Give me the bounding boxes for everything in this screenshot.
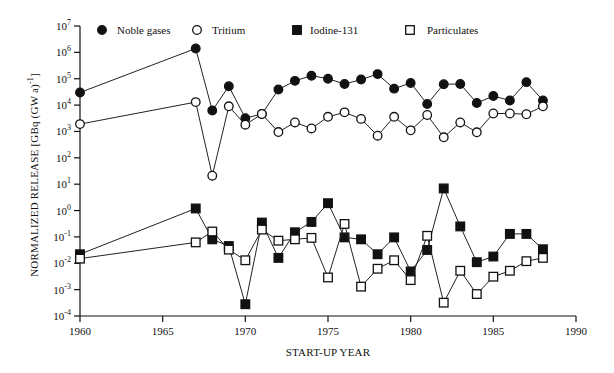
data-point bbox=[439, 133, 448, 142]
data-point bbox=[76, 254, 85, 263]
data-point bbox=[522, 230, 531, 239]
data-point bbox=[274, 236, 283, 245]
data-point bbox=[439, 298, 448, 307]
series-tritium bbox=[76, 98, 548, 180]
y-axis-title: NORMALIZED RELEASE [GBq (GW a)-1] bbox=[26, 73, 41, 277]
data-point bbox=[291, 118, 300, 127]
data-point bbox=[357, 75, 366, 84]
data-point bbox=[307, 218, 316, 227]
data-point bbox=[324, 273, 333, 282]
data-point bbox=[506, 230, 515, 239]
data-point bbox=[274, 85, 283, 94]
data-point bbox=[274, 128, 283, 137]
data-point bbox=[373, 70, 382, 79]
data-point bbox=[307, 71, 316, 80]
data-point bbox=[456, 80, 465, 89]
data-point bbox=[258, 110, 267, 119]
y-tick-label: 106 bbox=[56, 44, 71, 58]
data-point bbox=[539, 245, 548, 254]
data-point bbox=[225, 82, 234, 91]
y-tick-label: 107 bbox=[56, 18, 71, 32]
data-point bbox=[324, 199, 333, 208]
data-point bbox=[473, 128, 482, 137]
y-axis-title-main: NORMALIZED RELEASE [GBq (GW a) bbox=[28, 84, 41, 277]
data-point bbox=[373, 250, 382, 259]
filled-circle-icon bbox=[98, 26, 107, 35]
data-point bbox=[539, 254, 548, 263]
data-point bbox=[208, 227, 217, 236]
data-point bbox=[390, 233, 399, 242]
data-point bbox=[191, 204, 200, 213]
data-point bbox=[307, 124, 316, 133]
data-point bbox=[489, 109, 498, 118]
y-axis-title-sup: -1 bbox=[26, 77, 35, 84]
series-line bbox=[80, 188, 543, 304]
data-point bbox=[340, 108, 349, 117]
data-point bbox=[522, 257, 531, 266]
data-point bbox=[522, 78, 531, 87]
x-tick-label: 1970 bbox=[234, 325, 257, 337]
y-axis-ticks: 10710610510410310210110010-110-210-310-4 bbox=[53, 18, 80, 322]
data-point bbox=[373, 131, 382, 140]
data-point bbox=[456, 266, 465, 275]
series-noble-gases bbox=[76, 44, 548, 122]
open-square-icon bbox=[406, 26, 415, 35]
data-point bbox=[241, 120, 250, 129]
data-point bbox=[390, 112, 399, 121]
y-tick-label: 10-4 bbox=[53, 308, 71, 322]
data-point bbox=[208, 106, 217, 115]
data-point bbox=[489, 252, 498, 261]
data-point bbox=[522, 110, 531, 119]
x-tick-label: 1975 bbox=[317, 325, 340, 337]
y-tick-label: 104 bbox=[56, 97, 71, 111]
data-point bbox=[340, 80, 349, 89]
data-point bbox=[473, 99, 482, 108]
data-point bbox=[506, 266, 515, 275]
data-point bbox=[191, 238, 200, 247]
legend-item-particulates: Particulates bbox=[406, 24, 479, 36]
data-point bbox=[439, 184, 448, 193]
data-series bbox=[76, 44, 548, 308]
data-point bbox=[456, 222, 465, 231]
x-tick-label: 1990 bbox=[565, 325, 588, 337]
data-point bbox=[324, 112, 333, 121]
data-point bbox=[473, 258, 482, 267]
data-point bbox=[390, 256, 399, 265]
y-tick-label: 102 bbox=[56, 150, 71, 164]
data-point bbox=[324, 74, 333, 83]
data-point bbox=[291, 77, 300, 86]
series-line bbox=[80, 102, 543, 176]
data-point bbox=[423, 100, 432, 109]
data-point bbox=[506, 96, 515, 105]
data-point bbox=[76, 120, 85, 129]
data-point bbox=[291, 235, 300, 244]
y-tick-label: 10-2 bbox=[53, 255, 71, 269]
filled-square-icon bbox=[293, 26, 302, 35]
legend-label: Iodine-131 bbox=[310, 24, 358, 36]
data-point bbox=[539, 102, 548, 111]
data-point bbox=[473, 290, 482, 299]
data-point bbox=[274, 254, 283, 263]
data-point bbox=[423, 111, 432, 120]
chart: 10710610510410310210110010-110-210-310-4… bbox=[0, 0, 614, 373]
data-point bbox=[406, 276, 415, 285]
data-point bbox=[191, 98, 200, 107]
data-point bbox=[340, 220, 349, 229]
data-point bbox=[357, 282, 366, 291]
y-tick-label: 10-1 bbox=[53, 229, 71, 243]
x-axis-title: START-UP YEAR bbox=[286, 346, 371, 358]
data-point bbox=[225, 102, 234, 111]
legend-label: Tritium bbox=[212, 24, 246, 36]
data-point bbox=[258, 225, 267, 234]
data-point bbox=[76, 88, 85, 97]
data-point bbox=[357, 235, 366, 244]
legend-item-iodine-131: Iodine-131 bbox=[293, 24, 359, 36]
y-tick-label: 105 bbox=[56, 71, 71, 85]
data-point bbox=[241, 300, 250, 309]
legend-item-noble-gases: Noble gases bbox=[98, 24, 171, 36]
legend-item-tritium: Tritium bbox=[193, 24, 246, 36]
legend-label: Particulates bbox=[427, 24, 478, 36]
data-point bbox=[307, 234, 316, 243]
open-circle-icon bbox=[193, 26, 202, 35]
data-point bbox=[489, 272, 498, 281]
